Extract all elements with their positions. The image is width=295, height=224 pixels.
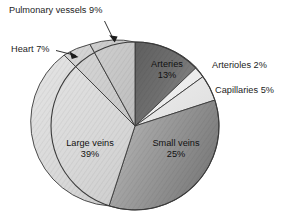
pie-chart-canvas [0,0,295,224]
label-arteries-name: Arteries [151,59,183,69]
label-heart: Heart 7% [11,44,49,55]
label-pulmonary-vessels: Pulmonary vessels 9% [9,5,102,16]
label-small-veins: Small veins 25% [143,138,209,159]
label-arterioles: Arterioles 2% [212,60,267,71]
pie-chart-figure: Pulmonary vessels 9% Heart 7% Arterioles… [0,0,295,224]
label-large-veins-name: Large veins [66,138,114,148]
label-large-veins-pct: 39% [57,149,123,160]
label-small-veins-pct: 25% [143,149,209,160]
label-small-veins-name: Small veins [152,138,199,148]
label-arteries-pct: 13% [137,70,197,81]
label-large-veins: Large veins 39% [57,138,123,159]
pulmonary-vessels-leader-arrow [105,21,118,43]
label-arteries: Arteries 13% [137,59,197,80]
label-capillaries: Capillaries 5% [215,85,274,96]
